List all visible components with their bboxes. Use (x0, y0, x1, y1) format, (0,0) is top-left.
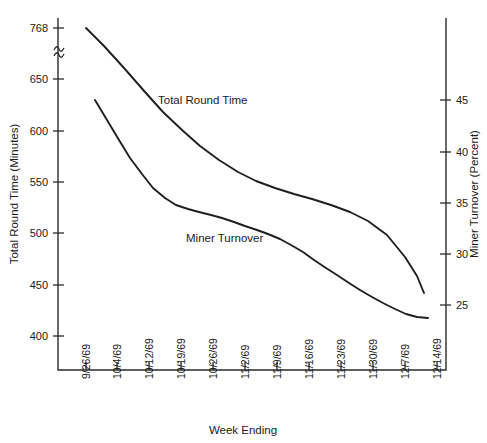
x-tick-label: 10/19/69 (175, 338, 187, 379)
y-tick-label: 550 (30, 176, 48, 188)
x-tick-label: 12/7/69 (399, 344, 411, 379)
x-tick-label: 11/23/69 (335, 339, 347, 379)
x-tick-label: 11/2/69 (239, 345, 251, 379)
x-tick-label: 10/4/69 (111, 344, 123, 379)
series-line-total-round-time (86, 28, 424, 293)
y-axis-break-icon (54, 47, 64, 58)
y-tick-label: 500 (30, 227, 48, 239)
x-tick-label: 11/30/69 (367, 339, 379, 379)
x-tick-label: 12/14/69 (431, 338, 443, 379)
y-axis-left-ticks: 768 650 600 550 500 450 400 (30, 22, 64, 342)
x-tick-label: 10/26/69 (207, 338, 219, 379)
y2-tick-label: 45 (456, 94, 468, 106)
x-axis-title: Week Ending (209, 424, 277, 436)
y2-tick-label: 40 (456, 146, 468, 158)
y-axis-right-ticks: 45 40 35 30 25 (440, 94, 468, 311)
y-axis-title-left: Total Round Time (Minutes) (8, 124, 20, 265)
y2-tick-label: 35 (456, 197, 468, 209)
x-tick-label: 11/16/69 (303, 339, 315, 379)
y-tick-label: 400 (30, 330, 48, 342)
series-label-total-round-time: Total Round Time (158, 94, 248, 106)
y-tick-label: 450 (30, 279, 48, 291)
x-tick-label: 11/9/69 (271, 345, 283, 379)
y-axis-title-right: Miner Turnover (Percent) (468, 130, 480, 258)
chart-axes-frame (58, 18, 446, 370)
series-label-miner-turnover: Miner Turnover (186, 232, 264, 244)
y2-tick-label: 25 (456, 299, 468, 311)
y2-tick-label: 30 (456, 248, 468, 260)
line-chart-figure: 768 650 600 550 500 450 400 45 40 35 30 (0, 0, 487, 443)
y-tick-label: 768 (30, 22, 48, 34)
y-tick-label: 600 (30, 125, 48, 137)
chart-container: 768 650 600 550 500 450 400 45 40 35 30 (0, 0, 487, 443)
x-axis-ticks: 9/26/69 10/4/69 10/12/69 10/19/69 10/26/… (80, 338, 443, 379)
x-tick-label: 10/12/69 (143, 338, 155, 379)
x-tick-label: 9/26/69 (80, 344, 92, 379)
series-line-miner-turnover (95, 100, 428, 318)
y-tick-label: 650 (30, 73, 48, 85)
